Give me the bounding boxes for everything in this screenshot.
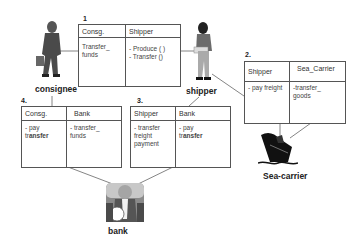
sea-carrier-figure	[258, 129, 298, 167]
contract-3-left: Shipper - transfer freight payment	[131, 107, 176, 167]
bank-figure	[106, 183, 144, 222]
contract-4-number: 4.	[21, 97, 27, 104]
contract-4-left: Consg. - pay transfer	[22, 107, 67, 167]
sea-carrier-label: Sea-carrier	[263, 171, 307, 181]
contract-4-right-header: Bank	[67, 107, 121, 121]
contract-2-left: Shipper - pay freight	[245, 62, 290, 123]
contract-1-left-body: Transfer_ funds	[79, 41, 125, 61]
contract-4-left-header: Consg.	[22, 107, 66, 121]
contract-2-left-body: - pay freight	[245, 82, 289, 94]
contract-2-right-header: Sea_Carrier	[290, 62, 345, 82]
contract-1-left: Consg. Transfer_ funds	[79, 25, 126, 86]
contract-3-right: Bank - pay transfer	[176, 107, 230, 167]
ship-icon	[258, 129, 298, 167]
contract-1-number: 1	[83, 15, 87, 22]
contract-2-number: 2.	[245, 51, 251, 58]
bank-teller-icon	[106, 183, 144, 222]
shipper-label: shipper	[186, 86, 217, 96]
contract-2-left-header: Shipper	[245, 62, 289, 82]
contract-2-right: Sea_Carrier -transfer_ goods	[290, 62, 345, 123]
contract-4-right-body: - transfer_ funds	[67, 122, 121, 142]
contract-4-right: Bank - transfer_ funds	[67, 107, 121, 167]
person-with-briefcase-icon	[33, 20, 65, 80]
contract-4-left-body: - pay transfer	[22, 122, 66, 142]
contract-3-box: Shipper - transfer freight payment Bank …	[130, 106, 231, 168]
contract-1-box: Consg. Transfer_ funds Shipper - Produce…	[78, 24, 181, 87]
contract-3-right-header: Bank	[176, 107, 230, 121]
contract-2-right-body: -transfer_ goods	[290, 82, 345, 102]
contract-4-box: Consg. - pay transfer Bank - transfer_ f…	[21, 106, 122, 168]
contract-1-left-header: Consg.	[79, 25, 125, 38]
consignee-label: consignee	[35, 84, 77, 94]
bank-label: bank	[108, 226, 128, 236]
shipper-figure	[191, 21, 217, 83]
contract-1-right: Shipper - Produce ( ) - Transfer ()	[126, 25, 180, 86]
person-holding-package-icon	[191, 21, 217, 83]
contract-3-left-body: - transfer freight payment	[131, 122, 175, 150]
contract-1-right-header: Shipper	[126, 25, 180, 38]
contract-1-right-body: - Produce ( ) - Transfer ()	[126, 43, 180, 63]
contract-2-box: Shipper - pay freight Sea_Carrier -trans…	[244, 61, 346, 124]
contract-3-right-body: - pay transfer	[176, 122, 230, 142]
consignee-figure	[33, 20, 65, 80]
contract-3-left-header: Shipper	[131, 107, 175, 121]
contract-3-number: 3.	[137, 97, 143, 104]
